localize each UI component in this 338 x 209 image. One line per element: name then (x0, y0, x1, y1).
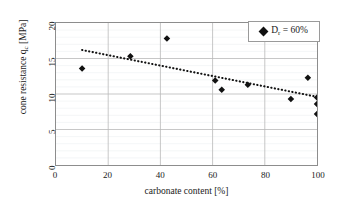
legend-label-suffix: = 60% (280, 25, 308, 35)
x-axis-tick-label: 0 (40, 170, 70, 180)
x-axis-tick-label: 60 (198, 170, 228, 180)
x-axis-tick-label: 100 (303, 170, 333, 180)
data-point (314, 101, 317, 108)
legend-label: Dr = 60% (271, 25, 308, 38)
plot-area (55, 22, 318, 166)
data-point (218, 86, 225, 93)
data-point (288, 96, 295, 103)
y-axis-title-main: cone resistance q (18, 49, 28, 114)
y-axis-title-unit: [MPa] (18, 20, 28, 47)
legend-label-prefix: D (271, 25, 278, 35)
data-point (164, 35, 171, 42)
y-axis-title: cone resistance qc [MPa] (18, 0, 32, 142)
data-point (305, 74, 312, 81)
data-point (314, 111, 317, 118)
x-axis-title: carbonate content [%] (55, 186, 318, 197)
y-axis-tick-label: 20 (48, 22, 57, 44)
chart-legend: Dr = 60% (248, 21, 320, 42)
chart-figure: 05101520 020406080100 cone resistance qc… (0, 0, 338, 209)
x-axis-tick-label: 40 (145, 170, 175, 180)
x-axis-tick-label: 80 (250, 170, 280, 180)
data-series-layer (56, 23, 317, 165)
y-axis-tick-label: 5 (48, 130, 57, 152)
data-point (212, 77, 219, 84)
y-axis-title-subscript: c (22, 46, 30, 49)
y-axis-tick-label: 15 (48, 58, 57, 80)
x-axis-tick-label: 20 (93, 170, 123, 180)
data-point (79, 65, 86, 72)
legend-diamond-marker-icon (259, 27, 269, 37)
data-point (314, 94, 317, 101)
y-axis-tick-label: 10 (48, 94, 57, 116)
